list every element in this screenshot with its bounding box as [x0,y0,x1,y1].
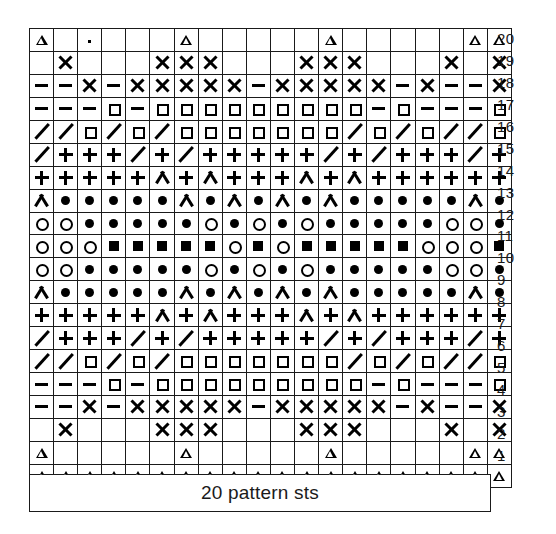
pattern-cell[interactable] [270,373,294,396]
pattern-cell[interactable] [391,74,415,97]
pattern-cell[interactable] [222,97,246,120]
pattern-cell[interactable] [198,235,222,258]
pattern-cell[interactable] [343,350,367,373]
pattern-cell[interactable] [246,212,270,235]
pattern-cell[interactable] [415,304,439,327]
pattern-cell[interactable] [367,143,391,166]
pattern-cell[interactable] [343,74,367,97]
pattern-cell[interactable] [78,327,102,350]
pattern-cell[interactable] [463,212,487,235]
pattern-cell[interactable] [126,258,150,281]
pattern-cell[interactable] [174,29,198,52]
pattern-cell[interactable] [246,166,270,189]
pattern-cell[interactable] [126,97,150,120]
pattern-cell[interactable] [319,97,343,120]
pattern-cell[interactable] [463,304,487,327]
pattern-cell[interactable] [102,166,126,189]
pattern-cell[interactable] [319,189,343,212]
pattern-cell[interactable] [343,418,367,441]
pattern-cell[interactable] [463,396,487,419]
pattern-cell[interactable] [102,120,126,143]
pattern-cell[interactable] [415,441,439,464]
pattern-cell[interactable] [102,396,126,419]
pattern-cell[interactable] [367,74,391,97]
pattern-cell[interactable] [391,143,415,166]
pattern-cell[interactable] [30,74,54,97]
pattern-cell[interactable] [198,166,222,189]
pattern-cell[interactable] [439,189,463,212]
pattern-cell[interactable] [198,258,222,281]
pattern-cell[interactable] [78,29,102,52]
pattern-cell[interactable] [439,97,463,120]
pattern-cell[interactable] [415,120,439,143]
pattern-cell[interactable] [246,235,270,258]
pattern-cell[interactable] [415,258,439,281]
pattern-cell[interactable] [463,418,487,441]
pattern-cell[interactable] [222,74,246,97]
pattern-cell[interactable] [198,74,222,97]
pattern-cell[interactable] [102,304,126,327]
pattern-cell[interactable] [439,396,463,419]
pattern-cell[interactable] [174,97,198,120]
pattern-cell[interactable] [30,350,54,373]
pattern-cell[interactable] [391,120,415,143]
pattern-cell[interactable] [102,74,126,97]
pattern-cell[interactable] [343,327,367,350]
pattern-cell[interactable] [295,258,319,281]
pattern-cell[interactable] [126,74,150,97]
pattern-cell[interactable] [463,258,487,281]
pattern-cell[interactable] [198,441,222,464]
pattern-cell[interactable] [150,29,174,52]
pattern-cell[interactable] [367,304,391,327]
pattern-cell[interactable] [319,143,343,166]
pattern-cell[interactable] [126,166,150,189]
pattern-cell[interactable] [174,120,198,143]
pattern-cell[interactable] [102,418,126,441]
pattern-cell[interactable] [343,143,367,166]
pattern-cell[interactable] [343,212,367,235]
pattern-cell[interactable] [174,51,198,74]
pattern-cell[interactable] [150,51,174,74]
pattern-cell[interactable] [246,120,270,143]
pattern-cell[interactable] [78,396,102,419]
pattern-cell[interactable] [319,281,343,304]
pattern-cell[interactable] [174,166,198,189]
pattern-cell[interactable] [174,350,198,373]
pattern-cell[interactable] [367,373,391,396]
pattern-cell[interactable] [415,166,439,189]
pattern-cell[interactable] [246,189,270,212]
pattern-cell[interactable] [367,29,391,52]
pattern-cell[interactable] [30,120,54,143]
pattern-cell[interactable] [367,97,391,120]
pattern-cell[interactable] [463,120,487,143]
pattern-cell[interactable] [439,212,463,235]
pattern-cell[interactable] [391,373,415,396]
pattern-cell[interactable] [319,441,343,464]
pattern-cell[interactable] [415,373,439,396]
pattern-cell[interactable] [415,235,439,258]
pattern-cell[interactable] [78,304,102,327]
pattern-cell[interactable] [270,189,294,212]
pattern-cell[interactable] [222,418,246,441]
pattern-cell[interactable] [78,281,102,304]
pattern-cell[interactable] [150,97,174,120]
pattern-cell[interactable] [246,396,270,419]
pattern-cell[interactable] [343,97,367,120]
pattern-cell[interactable] [102,441,126,464]
pattern-cell[interactable] [174,418,198,441]
pattern-cell[interactable] [439,281,463,304]
pattern-cell[interactable] [463,143,487,166]
pattern-cell[interactable] [343,120,367,143]
pattern-cell[interactable] [415,74,439,97]
pattern-cell[interactable] [126,396,150,419]
pattern-cell[interactable] [391,51,415,74]
pattern-cell[interactable] [174,396,198,419]
pattern-cell[interactable] [30,396,54,419]
pattern-cell[interactable] [198,120,222,143]
pattern-cell[interactable] [126,281,150,304]
pattern-cell[interactable] [246,281,270,304]
pattern-cell[interactable] [246,304,270,327]
pattern-cell[interactable] [222,373,246,396]
pattern-cell[interactable] [270,327,294,350]
pattern-cell[interactable] [246,441,270,464]
